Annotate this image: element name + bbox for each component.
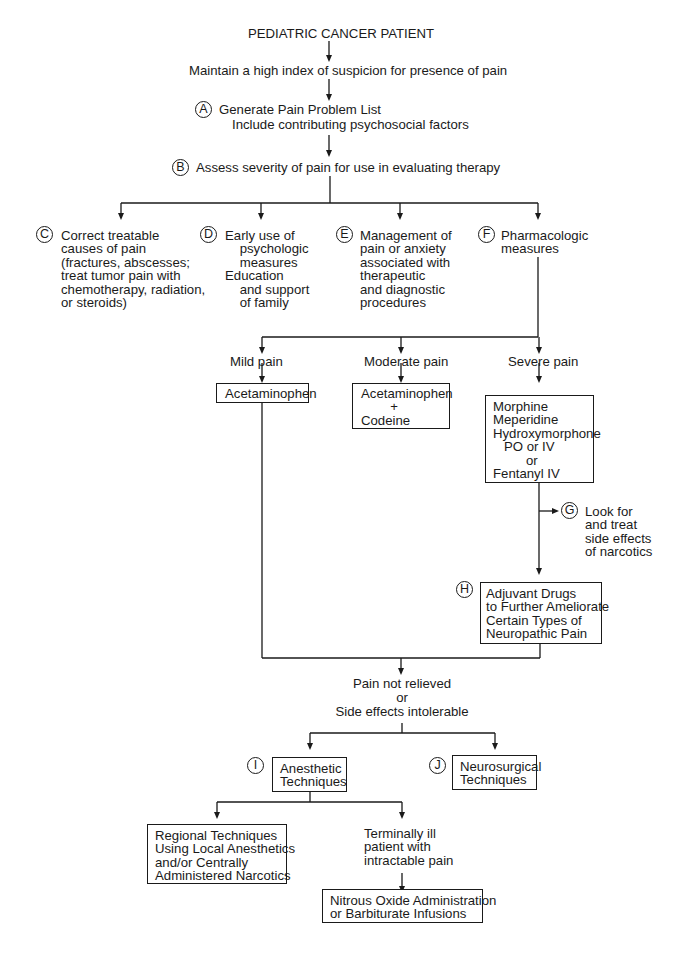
j-text: Neurosurgical Techniques bbox=[460, 760, 541, 787]
branch-d-text: Early use of psychologic measures Educat… bbox=[225, 229, 309, 309]
g-text: Look for and treat side effects of narco… bbox=[585, 505, 652, 559]
mild-drug-text: Acetaminophen bbox=[225, 387, 317, 400]
not-relieved-line3: Side effects intolerable bbox=[332, 705, 472, 718]
branch-e-text: Management of pain or anxiety associated… bbox=[360, 229, 452, 309]
badge-d-icon: D bbox=[200, 226, 217, 243]
branch-c-text: Correct treatable causes of pain (fractu… bbox=[61, 229, 205, 309]
moderate-drug-text: Acetaminophen + Codeine bbox=[361, 387, 453, 427]
mild-drug-box: Acetaminophen bbox=[216, 383, 309, 403]
badge-i-icon: I bbox=[247, 757, 264, 774]
moderate-drug-box: Acetaminophen + Codeine bbox=[352, 383, 450, 429]
severe-drug-text: Morphine Meperidine Hydroxymorphone PO o… bbox=[493, 400, 601, 480]
terminal-text: Terminally ill patient with intractable … bbox=[364, 827, 453, 867]
h-text: Adjuvant Drugs to Further Ameliorate Cer… bbox=[486, 587, 609, 641]
moderate-pain-label: Moderate pain bbox=[364, 355, 448, 368]
badge-g-icon: G bbox=[561, 502, 578, 519]
severe-pain-label: Severe pain bbox=[508, 355, 578, 368]
i-text: Anesthetic Techniques bbox=[280, 762, 347, 789]
step-a-line1: Generate Pain Problem List bbox=[219, 103, 381, 116]
flow-title: PEDIATRIC CANCER PATIENT bbox=[248, 27, 434, 40]
nitrous-text: Nitrous Oxide Administration or Barbitur… bbox=[330, 894, 496, 921]
nitrous-oxide-box: Nitrous Oxide Administration or Barbitur… bbox=[322, 889, 483, 923]
not-relieved-line2: or bbox=[340, 691, 464, 704]
step-b-text: Assess severity of pain for use in evalu… bbox=[196, 161, 500, 174]
branch-f-text: Pharmacologic measures bbox=[501, 229, 588, 256]
suspicion-step: Maintain a high index of suspicion for p… bbox=[189, 64, 507, 77]
mild-pain-label: Mild pain bbox=[230, 355, 283, 368]
adjuvant-drugs-box: Adjuvant Drugs to Further Ameliorate Cer… bbox=[480, 582, 602, 644]
badge-b-icon: B bbox=[172, 159, 189, 176]
badge-e-icon: E bbox=[336, 226, 353, 243]
badge-a-icon: A bbox=[195, 101, 212, 118]
badge-c-icon: C bbox=[36, 226, 53, 243]
anesthetic-techniques-box: Anesthetic Techniques bbox=[272, 757, 347, 792]
badge-f-icon: F bbox=[478, 226, 495, 243]
badge-h-icon: H bbox=[456, 581, 473, 598]
regional-techniques-box: Regional Techniques Using Local Anesthet… bbox=[147, 824, 287, 884]
badge-j-icon: J bbox=[429, 757, 446, 774]
neurosurgical-techniques-box: Neurosurgical Techniques bbox=[452, 755, 537, 790]
severe-drug-box: Morphine Meperidine Hydroxymorphone PO o… bbox=[485, 395, 594, 483]
not-relieved-line1: Pain not relieved bbox=[340, 677, 464, 690]
step-a-line2: Include contributing psychosocial factor… bbox=[232, 118, 469, 131]
regional-text: Regional Techniques Using Local Anesthet… bbox=[155, 829, 295, 883]
